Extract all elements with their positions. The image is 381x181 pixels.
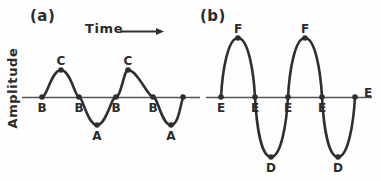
panel-a-waveform xyxy=(42,70,183,125)
waveforms-canvas xyxy=(0,0,381,181)
panel-b-dots xyxy=(218,35,358,160)
wave-amplitude-figure: (a) (b) Time Amplitude xyxy=(0,0,381,181)
panel-b-waveform xyxy=(221,38,355,157)
point-label-b-d1: D xyxy=(266,161,276,175)
point-label-a-c2: C xyxy=(124,54,133,68)
panel-b-caption: (b) xyxy=(200,7,226,25)
point-label-b-f1: F xyxy=(234,22,242,36)
amplitude-axis-label: Amplitude xyxy=(5,57,20,129)
point-label-a-b4: B xyxy=(148,101,157,115)
point-label-a-a2: A xyxy=(166,129,175,143)
panel-a-dots xyxy=(39,67,186,128)
panel-a-caption: (a) xyxy=(30,7,55,25)
right-arrow-icon xyxy=(120,27,164,36)
point-label-a-a1: A xyxy=(92,129,101,143)
point-label-b-e5: E xyxy=(364,86,372,100)
time-axis-label: Time xyxy=(85,21,123,36)
point-label-b-e3: E xyxy=(284,101,292,115)
point-label-b-e2: E xyxy=(251,101,259,115)
point-label-b-f2: F xyxy=(301,22,309,36)
point-label-a-b2: B xyxy=(74,101,83,115)
point-label-a-b1: B xyxy=(37,101,46,115)
point-label-b-d2: D xyxy=(333,161,343,175)
point-label-b-e1: E xyxy=(217,101,225,115)
point-label-a-b3: B xyxy=(111,101,120,115)
point-label-a-c1: C xyxy=(57,54,66,68)
point-label-b-e4: E xyxy=(318,101,326,115)
